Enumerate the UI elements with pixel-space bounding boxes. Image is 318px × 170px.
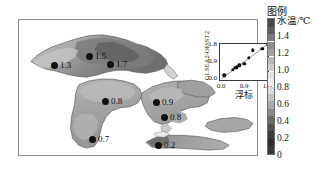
channel-st-marys (164, 64, 178, 79)
colorbar-swatch (268, 146, 274, 154)
station-superior-east: 1.7 (107, 60, 127, 69)
figure-root: 1.3 1.5 1.7 0.8 0.9 0.8 0.7 0.2 (0, 0, 318, 170)
station-huron-south: 0.8 (161, 113, 181, 122)
station-michigan-south: 0.7 (89, 135, 109, 144)
legend-tick: 0.6 (277, 99, 289, 109)
colorbar-swatch (268, 116, 274, 124)
legend-tick-group: 水温/℃ 1.4 1.2 1.0 0.8 0.6 0.4 0.2 0 (277, 16, 317, 158)
inset-y-tick-group: 1.8 0.9 0.0 (197, 41, 217, 83)
colorbar-swatch (268, 49, 274, 57)
colorbar-swatch (268, 109, 274, 117)
colorbar-swatch (268, 34, 274, 42)
legend-body: 水温/℃ 1.4 1.2 1.0 0.8 0.6 0.4 0.2 0 (266, 18, 318, 164)
inset-y-tick: 1.8 (197, 41, 217, 48)
legend-tick: 1.0 (277, 65, 289, 75)
inset-scatter-panel: GLSEA2-OISST2 1.8 0.9 0.0 (197, 41, 275, 93)
lake-st-clair-shape (161, 124, 172, 132)
colorbar-swatch (268, 72, 274, 80)
colorbar-swatch (268, 87, 274, 95)
map-panel: 1.3 1.5 1.7 0.8 0.9 0.8 0.7 0.2 (18, 19, 258, 156)
station-huron-north: 0.9 (153, 98, 173, 107)
colorbar-swatch (268, 19, 274, 27)
colorbar-swatch (268, 139, 274, 147)
station-value: 0.8 (111, 97, 122, 106)
inset-plot-area (219, 43, 269, 81)
station-value: 1.5 (95, 52, 106, 61)
legend-tick: 0.4 (277, 116, 289, 126)
station-dot (107, 61, 114, 68)
station-dot (161, 114, 168, 121)
colorbar-swatch (268, 42, 274, 50)
colorbar-swatch (268, 64, 274, 72)
station-dot (89, 136, 96, 143)
station-value: 0.7 (98, 135, 109, 144)
colorbar-swatch (268, 79, 274, 87)
station-dot (155, 142, 162, 149)
station-superior-mid: 1.5 (86, 52, 106, 61)
inset-x-tick: 0.9 (240, 82, 249, 90)
legend-tick: 1.2 (277, 48, 289, 58)
legend-tick: 0.8 (277, 82, 289, 92)
legend-unit-label: 水温/℃ (277, 16, 310, 26)
station-value: 0.8 (170, 113, 181, 122)
colorbar (267, 18, 275, 155)
station-superior-west: 1.3 (51, 61, 71, 70)
station-value: 0.9 (162, 98, 173, 107)
legend-panel: 图例 (266, 6, 318, 164)
station-dot (51, 62, 58, 69)
station-dot (102, 98, 109, 105)
station-erie-west: 0.2 (155, 141, 175, 150)
station-dot (86, 53, 93, 60)
colorbar-swatch (268, 94, 274, 102)
inset-y-tick: 0.9 (197, 58, 217, 65)
station-michigan-north: 0.8 (102, 97, 122, 106)
colorbar-swatch (268, 57, 274, 65)
colorbar-swatch (268, 124, 274, 132)
legend-tick: 0.2 (277, 133, 289, 143)
colorbar-swatch (268, 131, 274, 139)
inset-y-tick: 0.0 (197, 75, 217, 82)
legend-tick: 1.4 (277, 31, 289, 41)
inset-x-tick: 0.0 (217, 82, 226, 90)
inset-x-axis-label: 浮标 (219, 90, 269, 100)
legend-tick: 0 (277, 150, 282, 160)
colorbar-swatch (268, 101, 274, 109)
colorbar-swatch (268, 27, 274, 35)
station-dot (153, 99, 160, 106)
lake-ontario-shape (205, 118, 253, 133)
station-value: 1.3 (60, 61, 71, 70)
station-value: 1.7 (116, 60, 127, 69)
station-value: 0.2 (164, 141, 175, 150)
